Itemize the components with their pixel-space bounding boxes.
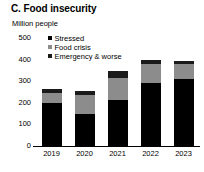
x-axis: 20192020202120222023 xyxy=(35,149,200,163)
bar-segment-stressed xyxy=(108,100,128,146)
bar-2023 xyxy=(174,61,194,146)
bar-2021 xyxy=(108,71,128,146)
bar-segment-stressed xyxy=(141,83,161,146)
x-axis-line xyxy=(33,146,200,147)
y-tick-label: 500 xyxy=(18,34,31,42)
bar-segment-food-crisis xyxy=(108,78,128,100)
y-tick-label: 200 xyxy=(18,99,31,107)
legend-label-emergency: Emergency & worse xyxy=(55,52,122,61)
bar-segment-emergency-worse xyxy=(108,71,128,78)
legend-label-stressed: Stressed xyxy=(55,34,85,43)
legend-item-food-crisis: Food crisis xyxy=(48,43,122,52)
legend-label-food-crisis: Food crisis xyxy=(55,43,91,52)
bar-segment-food-crisis xyxy=(174,64,194,79)
x-tick-label: 2020 xyxy=(76,149,93,159)
x-tick-label: 2022 xyxy=(142,149,159,159)
bar-segment-stressed xyxy=(174,79,194,146)
bar-2019 xyxy=(42,89,62,146)
legend-swatch-food-crisis xyxy=(48,45,52,49)
legend-item-stressed: Stressed xyxy=(48,34,122,43)
bar-segment-food-crisis xyxy=(141,64,161,83)
chart-legend: Stressed Food crisis Emergency & worse xyxy=(48,34,122,61)
x-tick-label: 2021 xyxy=(109,149,126,159)
legend-swatch-stressed xyxy=(48,36,52,40)
y-axis: 0100200300400500 xyxy=(0,38,33,146)
page-title: C. Food insecurity xyxy=(11,3,96,14)
bar-segment-food-crisis xyxy=(75,95,95,113)
bar-segment-food-crisis xyxy=(42,93,62,103)
y-tick-label: 100 xyxy=(18,120,31,128)
y-tick-label: 0 xyxy=(27,142,31,150)
bar-segment-stressed xyxy=(75,114,95,146)
food-insecurity-chart-panel: C. Food insecurity Million people Stress… xyxy=(0,0,204,172)
x-tick-label: 2019 xyxy=(43,149,60,159)
bar-2022 xyxy=(141,60,161,146)
y-tick-label: 400 xyxy=(18,56,31,64)
legend-swatch-emergency xyxy=(48,54,52,58)
legend-item-emergency: Emergency & worse xyxy=(48,52,122,61)
x-tick-label: 2023 xyxy=(175,149,192,159)
y-tick-label: 300 xyxy=(18,77,31,85)
y-axis-unit-label: Million people xyxy=(12,19,58,28)
bar-2020 xyxy=(75,91,95,146)
bar-segment-stressed xyxy=(42,103,62,146)
